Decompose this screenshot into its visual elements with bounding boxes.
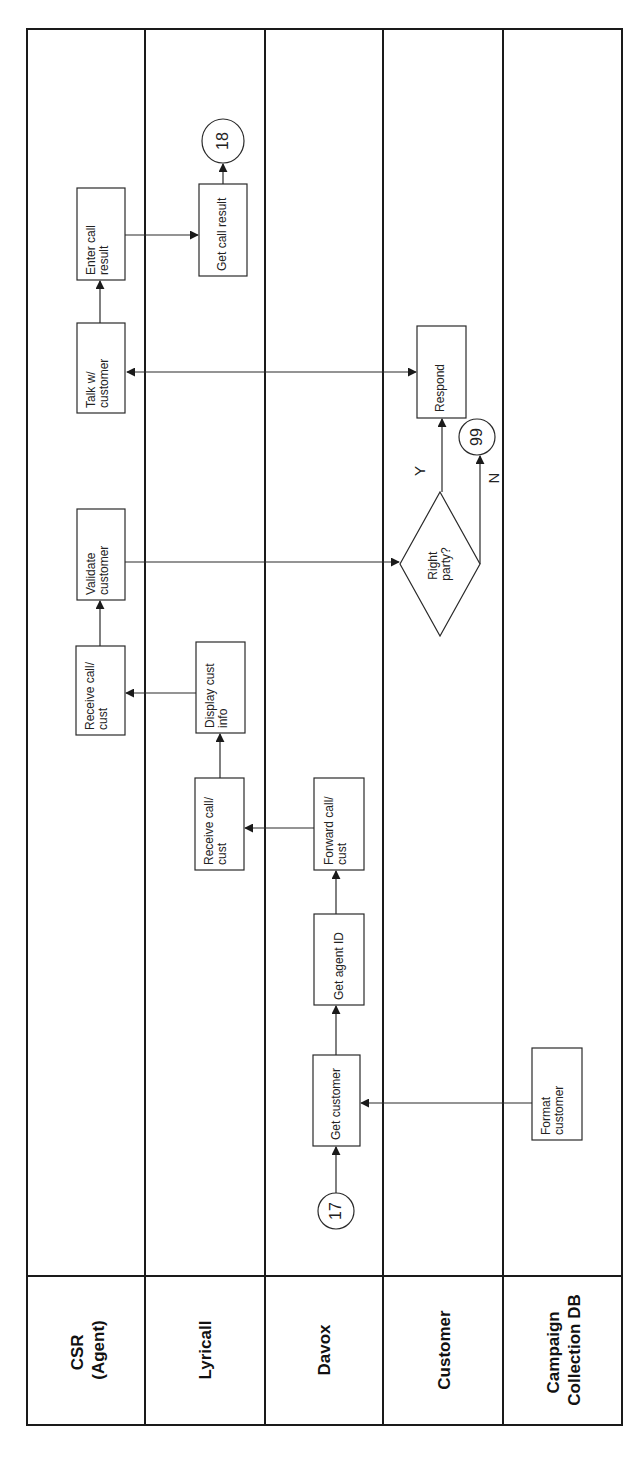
- lane-header-customer: Customer: [435, 1310, 454, 1390]
- node-enter-result: Enter call result: [77, 188, 125, 280]
- lane-header-campaign: Campaign Collection DB: [544, 1294, 584, 1405]
- node-get-agent-id-label: Get agent ID: [332, 932, 346, 1000]
- svg-text:Right party?: Right party?: [426, 547, 453, 581]
- node-display-info: Display cust info: [196, 642, 245, 733]
- lane-header-campaign-line2: Collection DB: [565, 1294, 584, 1405]
- node-get-result: Get call result: [199, 184, 247, 276]
- svg-text:Get agent ID: Get agent ID: [332, 932, 346, 1000]
- node-csr-receive-line2: cust: [96, 707, 110, 730]
- node-format-customer-line1: Format: [539, 1096, 553, 1135]
- svg-text:Get call result: Get call result: [215, 197, 229, 271]
- node-get-customer: Get customer: [313, 1055, 360, 1146]
- node-display-info-line2: info: [216, 708, 230, 728]
- node-talk-line1: Talk w/: [84, 371, 98, 408]
- svg-text:Lyricall: Lyricall: [196, 1321, 215, 1380]
- decision-yes-label: Y: [411, 466, 428, 476]
- connector-18: 18: [202, 119, 244, 163]
- node-csr-receive: Receive call/ cust: [76, 646, 125, 735]
- svg-text:Respond: Respond: [433, 364, 447, 412]
- connector-99-label: 99: [468, 428, 485, 446]
- lane-header-csr-line2: (Agent): [89, 1320, 108, 1379]
- node-get-result-label: Get call result: [215, 197, 229, 271]
- node-enter-result-line2: result: [97, 245, 111, 275]
- lane-header-customer-label: Customer: [435, 1310, 454, 1390]
- lane-header-campaign-line1: Campaign: [544, 1311, 563, 1393]
- connector-17-label: 17: [327, 1202, 344, 1220]
- svg-text:Customer: Customer: [435, 1310, 454, 1390]
- svg-text:Campaign Collection DB: Campaign Collection DB: [544, 1294, 584, 1405]
- node-format-customer-line2: customer: [552, 1086, 566, 1135]
- node-get-customer-label: Get customer: [329, 1068, 343, 1140]
- node-decision-line1: Right: [426, 551, 440, 580]
- lane-header-lyricall: Lyricall: [196, 1321, 215, 1380]
- node-forward-call-line2: cust: [335, 842, 349, 865]
- node-decision-line2: party?: [439, 547, 453, 581]
- decision-no-label: N: [485, 473, 502, 484]
- node-validate: Validate customer: [77, 509, 125, 600]
- svg-text:CSR (Agent): CSR (Agent): [68, 1320, 108, 1379]
- lane-header-csr: CSR (Agent): [68, 1320, 108, 1379]
- node-lyricall-receive-line1: Receive call/: [202, 796, 216, 865]
- node-format-customer: Format customer: [532, 1048, 582, 1140]
- svg-text:Davox: Davox: [315, 1324, 334, 1376]
- node-validate-line2: customer: [97, 546, 111, 595]
- node-decision-right-party: Right party?: [400, 492, 480, 636]
- connector-99: 99: [459, 419, 495, 455]
- node-csr-receive-line1: Receive call/: [83, 661, 97, 730]
- lane-header-csr-line1: CSR: [68, 1334, 87, 1370]
- lane-header-davox: Davox: [315, 1324, 334, 1376]
- svg-text:Validate customer: Validate customer: [84, 546, 111, 595]
- node-forward-call: Forward call/ cust: [314, 778, 364, 870]
- lane-header-lyricall-label: Lyricall: [196, 1321, 215, 1380]
- lane-header-davox-label: Davox: [315, 1324, 334, 1376]
- node-validate-line1: Validate: [84, 552, 98, 595]
- node-lyricall-receive: Receive call/ cust: [195, 778, 244, 870]
- node-talk: Talk w/ customer: [77, 323, 125, 413]
- swimlane-diagram: CSR (Agent) Lyricall Davox Customer Camp…: [0, 0, 640, 1460]
- node-display-info-line1: Display cust: [203, 663, 217, 728]
- connector-17: 17: [318, 1193, 354, 1229]
- node-talk-line2: customer: [97, 359, 111, 408]
- node-respond: Respond: [417, 326, 466, 418]
- svg-text:Get customer: Get customer: [329, 1068, 343, 1140]
- node-enter-result-line1: Enter call: [84, 225, 98, 275]
- edges: [100, 164, 532, 1193]
- node-respond-label: Respond: [433, 364, 447, 412]
- connector-18-label: 18: [214, 132, 231, 150]
- node-lyricall-receive-line2: cust: [215, 842, 229, 865]
- node-get-agent-id: Get agent ID: [314, 914, 364, 1005]
- node-forward-call-line1: Forward call/: [322, 796, 336, 865]
